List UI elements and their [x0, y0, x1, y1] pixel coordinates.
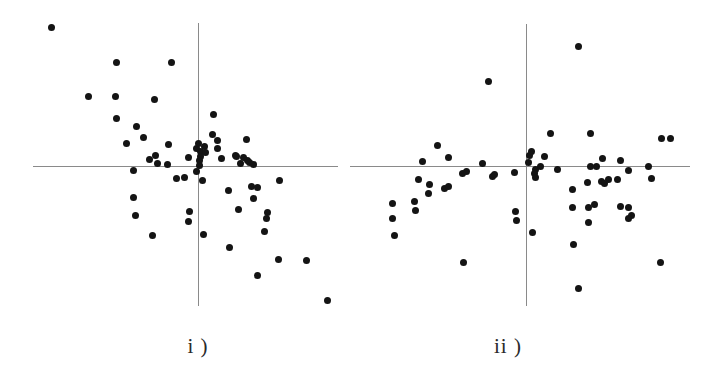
- data-point: [146, 156, 153, 163]
- data-point: [479, 160, 486, 167]
- data-point: [537, 163, 544, 170]
- data-point: [261, 228, 268, 235]
- data-point: [185, 218, 192, 225]
- data-point: [569, 204, 576, 211]
- data-point: [584, 179, 591, 186]
- data-point: [513, 217, 520, 224]
- data-point: [165, 141, 172, 148]
- panel-label-i: i ): [158, 334, 238, 359]
- data-point: [140, 134, 147, 141]
- data-point: [625, 204, 632, 211]
- data-point: [529, 229, 536, 236]
- data-point: [214, 145, 221, 152]
- data-point: [525, 159, 532, 166]
- data-point: [200, 231, 207, 238]
- data-point: [225, 187, 232, 194]
- data-point: [658, 135, 665, 142]
- data-point: [303, 257, 310, 264]
- data-point: [243, 136, 250, 143]
- data-point: [389, 200, 396, 207]
- data-point: [214, 137, 221, 144]
- data-point: [605, 176, 612, 183]
- data-point: [85, 93, 92, 100]
- data-point: [275, 256, 282, 263]
- data-point: [425, 190, 432, 197]
- data-point: [123, 140, 130, 147]
- data-point: [648, 175, 655, 182]
- data-point: [491, 171, 498, 178]
- data-point: [132, 212, 139, 219]
- data-point: [554, 166, 561, 173]
- data-point: [445, 183, 452, 190]
- data-point: [391, 232, 398, 239]
- data-point: [617, 157, 624, 164]
- data-point: [593, 163, 600, 170]
- data-point: [412, 207, 419, 214]
- data-point: [445, 154, 452, 161]
- x-axis-line: [33, 166, 338, 167]
- data-point: [202, 149, 209, 156]
- data-point: [419, 158, 426, 165]
- data-point: [625, 215, 632, 222]
- data-point: [154, 160, 161, 167]
- data-point: [152, 152, 159, 159]
- data-point: [113, 59, 120, 66]
- data-point: [254, 272, 261, 279]
- data-point: [415, 176, 422, 183]
- data-point: [463, 168, 470, 175]
- data-point: [625, 167, 632, 174]
- data-point: [460, 259, 467, 266]
- data-point: [168, 59, 175, 66]
- data-point: [199, 177, 206, 184]
- data-point: [599, 155, 606, 162]
- data-point: [186, 208, 193, 215]
- data-point: [324, 297, 331, 304]
- data-point: [585, 219, 592, 226]
- data-point: [263, 215, 270, 222]
- panel-label-ii: ii ): [468, 334, 548, 359]
- data-point: [233, 153, 240, 160]
- data-point: [237, 160, 244, 167]
- data-point: [226, 244, 233, 251]
- data-point: [254, 184, 261, 191]
- data-point: [575, 43, 582, 50]
- data-point: [547, 130, 554, 137]
- data-point: [434, 142, 441, 149]
- x-axis-line: [350, 166, 690, 167]
- data-point: [185, 154, 192, 161]
- data-point: [591, 201, 598, 208]
- data-point: [250, 161, 257, 168]
- data-point: [130, 194, 137, 201]
- data-point: [210, 111, 217, 118]
- data-point: [164, 161, 171, 168]
- data-point: [512, 208, 519, 215]
- data-point: [276, 177, 283, 184]
- data-point: [244, 157, 251, 164]
- data-point: [133, 123, 140, 130]
- data-point: [389, 215, 396, 222]
- data-point: [411, 198, 418, 205]
- data-point: [173, 175, 180, 182]
- data-point: [149, 232, 156, 239]
- data-point: [575, 285, 582, 292]
- data-point: [250, 195, 257, 202]
- data-point: [426, 181, 433, 188]
- data-point: [113, 115, 120, 122]
- data-point: [193, 168, 200, 175]
- data-point: [218, 155, 225, 162]
- data-point: [151, 96, 158, 103]
- data-point: [511, 169, 518, 176]
- data-point: [657, 259, 664, 266]
- data-point: [485, 78, 492, 85]
- data-point: [130, 167, 137, 174]
- data-point: [235, 206, 242, 213]
- data-point: [181, 174, 188, 181]
- data-point: [614, 176, 621, 183]
- data-point: [112, 93, 119, 100]
- data-point: [569, 186, 576, 193]
- data-point: [570, 241, 577, 248]
- data-point: [48, 24, 55, 31]
- data-point: [528, 148, 535, 155]
- data-point: [541, 153, 548, 160]
- data-point: [209, 131, 216, 138]
